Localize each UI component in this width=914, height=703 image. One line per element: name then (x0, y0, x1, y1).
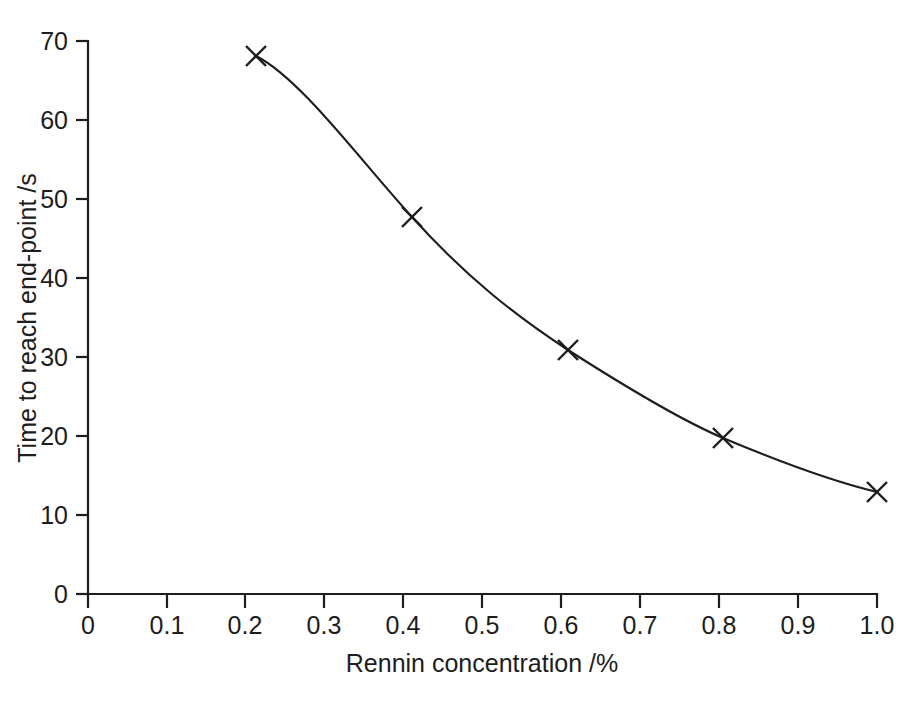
y-tick-label: 20 (40, 422, 68, 450)
x-tick-label: 0.3 (307, 611, 342, 639)
chart-background (0, 0, 914, 703)
x-tick-label: 0.5 (465, 611, 500, 639)
x-tick-label: 0.4 (386, 611, 421, 639)
y-tick-label: 50 (40, 185, 68, 213)
x-tick-label: 0.6 (544, 611, 579, 639)
x-tick-label: 0.2 (228, 611, 263, 639)
x-tick-label: 0.9 (781, 611, 816, 639)
x-tick-label: 0.7 (623, 611, 658, 639)
chart-figure: 70 60 50 40 30 20 10 0 0 0.1 0. (0, 0, 914, 703)
y-tick-label: 0 (54, 580, 68, 608)
y-tick-label: 60 (40, 106, 68, 134)
y-tick-label: 10 (40, 501, 68, 529)
line-chart: 70 60 50 40 30 20 10 0 0 0.1 0. (0, 0, 914, 703)
y-axis-title: Time to reach end-point /s (13, 173, 41, 463)
y-tick-label: 30 (40, 343, 68, 371)
x-tick-label: 0 (81, 611, 95, 639)
x-tick-label: 0.1 (150, 611, 185, 639)
x-axis-title: Rennin concentration /% (346, 649, 618, 677)
y-tick-label: 40 (40, 264, 68, 292)
y-tick-label: 70 (40, 27, 68, 55)
x-tick-label: 0.8 (702, 611, 737, 639)
x-tick-label: 1.0 (860, 611, 895, 639)
